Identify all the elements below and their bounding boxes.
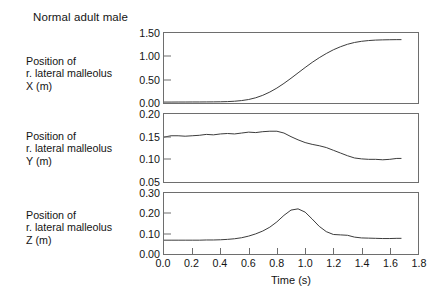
row-label-y-line1: Position of [26, 130, 112, 142]
plot-panel-x: 1.501.000.500.00 [163, 32, 419, 104]
y-tick-label-y-2: 0.10 [139, 153, 160, 165]
row-label-x-line1: Position of [26, 55, 112, 67]
x-tick-label-1: 0.2 [184, 257, 199, 269]
y-tick-label-y-0: 0.20 [139, 108, 160, 120]
figure-canvas: Normal adult male Position of r. lateral… [0, 0, 447, 306]
x-tick-mark-7 [362, 248, 363, 254]
y-tick-mark-z-1 [164, 213, 171, 214]
y-tick-mark-y-1 [164, 136, 171, 137]
row-label-x-line3: X (m) [26, 80, 112, 92]
row-label-z: Position of r. lateral malleolus Z (m) [26, 209, 112, 246]
x-axis-title: Time (s) [271, 274, 311, 286]
x-tick-mark-4 [277, 248, 278, 254]
x-tick-label-2: 0.4 [212, 257, 227, 269]
plot-panel-z: 0.300.200.100.00 [163, 192, 419, 255]
x-tick-mark-2 [220, 248, 221, 254]
y-tick-mark-z-2 [164, 233, 171, 234]
y-tick-label-z-1: 0.20 [139, 207, 160, 219]
x-tick-label-0: 0.0 [156, 257, 171, 269]
y-tick-mark-y-2 [164, 159, 171, 160]
trace-svg-z [164, 193, 418, 254]
row-label-z-line2: r. lateral malleolus [26, 221, 112, 233]
x-tick-mark-3 [249, 248, 250, 254]
plot-area-y [164, 114, 418, 182]
row-label-y-line2: r. lateral malleolus [26, 142, 112, 154]
x-tick-mark-1 [192, 248, 193, 254]
data-trace-z [164, 209, 401, 240]
x-tick-label-8: 1.6 [383, 257, 398, 269]
row-label-x: Position of r. lateral malleolus X (m) [26, 55, 112, 92]
data-trace-y [164, 131, 401, 160]
row-label-y: Position of r. lateral malleolus Y (m) [26, 130, 112, 167]
x-tick-label-4: 0.8 [269, 257, 284, 269]
trace-svg-x [164, 33, 418, 103]
x-tick-mark-6 [333, 248, 334, 254]
x-tick-mark-8 [390, 248, 391, 254]
plot-area-x [164, 33, 418, 103]
plot-area-z [164, 193, 418, 254]
row-label-y-line3: Y (m) [26, 155, 112, 167]
x-tick-label-9: 1.8 [412, 257, 427, 269]
y-tick-mark-x-2 [164, 79, 171, 80]
row-label-z-line1: Position of [26, 209, 112, 221]
data-trace-x [164, 40, 401, 102]
x-tick-label-3: 0.6 [241, 257, 256, 269]
y-tick-label-z-0: 0.30 [139, 187, 160, 199]
y-tick-label-y-1: 0.15 [139, 131, 160, 143]
x-tick-label-5: 1.0 [298, 257, 313, 269]
y-tick-label-x-2: 0.50 [139, 74, 160, 86]
x-tick-label-6: 1.2 [326, 257, 341, 269]
x-tick-mark-5 [305, 248, 306, 254]
y-tick-label-x-1: 1.00 [139, 50, 160, 62]
plot-panel-y: 0.200.150.100.05 [163, 113, 419, 183]
y-tick-mark-x-1 [164, 56, 171, 57]
row-label-x-line2: r. lateral malleolus [26, 67, 112, 79]
row-label-z-line3: Z (m) [26, 234, 112, 246]
y-tick-label-z-2: 0.10 [139, 228, 160, 240]
y-tick-label-x-0: 1.50 [139, 27, 160, 39]
x-tick-label-7: 1.4 [355, 257, 370, 269]
trace-svg-y [164, 114, 418, 182]
figure-title: Normal adult male [33, 11, 128, 23]
